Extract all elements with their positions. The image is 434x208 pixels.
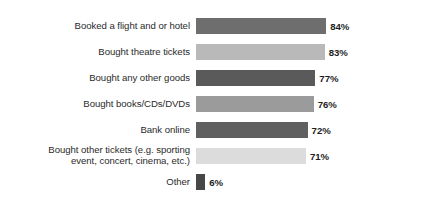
chart-row: Bought other tickets (e.g. sporting even… — [0, 143, 434, 169]
bar — [196, 122, 308, 138]
bar-value-label: 83% — [329, 47, 348, 58]
category-label: Bought any other goods — [0, 73, 196, 84]
bar-area: 6% — [196, 169, 434, 195]
bar-area: 72% — [196, 117, 434, 143]
chart-row: Bought books/CDs/DVDs76% — [0, 91, 434, 117]
chart-row: Other6% — [0, 169, 434, 195]
chart-row: Bought theatre tickets83% — [0, 39, 434, 65]
category-label: Booked a flight and or hotel — [0, 21, 196, 32]
category-label: Bought books/CDs/DVDs — [0, 99, 196, 110]
bar-value-label: 72% — [312, 125, 331, 136]
category-label: Other — [0, 177, 196, 188]
category-label: Bought other tickets (e.g. sporting even… — [0, 145, 196, 167]
bar — [196, 148, 306, 164]
bar-area: 84% — [196, 13, 434, 39]
bar-value-label: 6% — [209, 177, 223, 188]
bar-area: 71% — [196, 143, 434, 169]
chart-rows: Booked a flight and or hotel84%Bought th… — [0, 13, 434, 195]
category-label: Bought theatre tickets — [0, 47, 196, 58]
bar-area: 83% — [196, 39, 434, 65]
bar-area: 76% — [196, 91, 434, 117]
chart-row: Bought any other goods77% — [0, 65, 434, 91]
bar — [196, 174, 205, 190]
bar-value-label: 84% — [330, 21, 349, 32]
chart-row: Booked a flight and or hotel84% — [0, 13, 434, 39]
bar-value-label: 76% — [318, 99, 337, 110]
bar-value-label: 77% — [319, 73, 338, 84]
bar — [196, 18, 326, 34]
bar — [196, 70, 315, 86]
category-label: Bank online — [0, 125, 196, 136]
bar-area: 77% — [196, 65, 434, 91]
bar-chart: Booked a flight and or hotel84%Bought th… — [0, 0, 434, 208]
chart-row: Bank online72% — [0, 117, 434, 143]
bar-value-label: 71% — [310, 151, 329, 162]
bar — [196, 44, 325, 60]
bar — [196, 96, 314, 112]
